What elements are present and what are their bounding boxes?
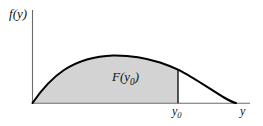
y-axis-label-paren-close: ) (23, 6, 27, 21)
shaded-area-label: F(y0) (112, 70, 139, 87)
density-function-figure: f(y) F(y0) y0 y (0, 0, 263, 126)
x-tick-label-subscript: 0 (177, 110, 181, 120)
x-axis-label: y (240, 105, 245, 117)
shaded-area-label-base: F (112, 69, 120, 84)
y-axis-label: f(y) (9, 7, 27, 20)
figure-canvas (0, 0, 263, 126)
x-axis-tick-label-y0: y0 (172, 105, 182, 120)
shaded-cdf-region (33, 55, 179, 103)
shaded-area-paren-close: ) (135, 69, 139, 84)
